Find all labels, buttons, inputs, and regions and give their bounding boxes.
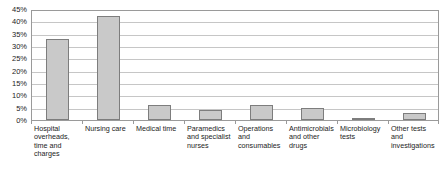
- y-axis-tick-label: 45%: [12, 6, 27, 14]
- bar: [46, 39, 69, 120]
- bar: [199, 110, 222, 120]
- x-axis-tick-mark: [184, 121, 185, 124]
- y-axis-tick-label: 5%: [16, 105, 27, 113]
- x-axis-tick-mark: [388, 121, 389, 124]
- bar: [352, 118, 375, 120]
- x-axis-category-label: Hospital overheads, time and charges: [34, 125, 81, 159]
- bar: [403, 113, 426, 120]
- x-axis-tick-mark: [235, 121, 236, 124]
- plot-area: [31, 10, 439, 121]
- x-axis-tick-mark: [82, 121, 83, 124]
- bar-chart: 0%5%10%15%20%25%30%35%40%45% Hospital ov…: [0, 0, 445, 169]
- y-axis-tick-label: 35%: [12, 31, 27, 39]
- y-axis-tick-label: 20%: [12, 68, 27, 76]
- x-axis-category-label: Nursing care: [85, 125, 132, 133]
- bar: [148, 105, 171, 120]
- bar: [301, 108, 324, 120]
- x-axis-category-label: Paramedics and specialist nurses: [187, 125, 234, 150]
- x-axis-category-label: Operations and consumables: [238, 125, 285, 150]
- x-axis-tick-mark: [337, 121, 338, 124]
- y-axis-tick-label: 10%: [12, 92, 27, 100]
- x-axis-tick-mark: [133, 121, 134, 124]
- x-axis-category-label: Antimicrobials and other drugs: [289, 125, 336, 150]
- y-axis-tick-label: 15%: [12, 80, 27, 88]
- x-axis-category-label: Microbiology tests: [340, 125, 387, 142]
- x-axis-tick-mark: [438, 121, 439, 124]
- x-axis-category-label: Other tests and investigations: [391, 125, 438, 150]
- x-axis-category-labels: Hospital overheads, time and chargesNurs…: [31, 125, 439, 169]
- y-axis-tick-label: 0%: [16, 117, 27, 125]
- cropped-title-remnant: [0, 0, 445, 5]
- x-axis-tick-mark: [286, 121, 287, 124]
- x-axis-category-label: Medical time: [136, 125, 183, 133]
- bar: [250, 105, 273, 120]
- bar-series: [32, 11, 438, 120]
- y-axis-tick-label: 30%: [12, 43, 27, 51]
- y-axis-tick-label: 25%: [12, 55, 27, 63]
- bar: [97, 16, 120, 120]
- y-axis-tick-label: 40%: [12, 18, 27, 26]
- x-axis-tick-mark: [31, 121, 32, 124]
- y-axis-tick-labels: 0%5%10%15%20%25%30%35%40%45%: [0, 10, 30, 121]
